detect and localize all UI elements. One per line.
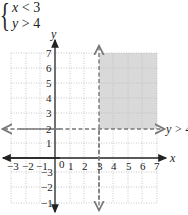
svg-text:5: 5 [46,77,52,89]
y-axis-label: y [50,27,57,41]
svg-text:7: 7 [46,47,52,59]
x-tick-labels: −3 −2 −1 0 1 2 3 4 5 6 7 [7,158,160,172]
svg-text:3: 3 [46,107,52,119]
svg-text:6: 6 [140,160,146,172]
boundary-label: y > 4 [165,122,188,136]
svg-text:1: 1 [46,137,52,149]
svg-text:−3: −3 [41,166,53,178]
svg-text:−2: −2 [22,160,34,172]
svg-text:0: 0 [59,158,65,170]
svg-text:−2: −2 [41,181,53,193]
svg-text:−1: −1 [41,197,53,209]
svg-text:4: 4 [46,92,52,104]
svg-text:5: 5 [126,160,132,172]
svg-text:7: 7 [154,160,160,172]
coordinate-graph: y x y > 4 −3 −2 −1 0 1 2 3 4 5 6 7 −3 −2… [0,0,188,215]
svg-text:2: 2 [46,123,52,135]
x-axis-label: x [169,151,176,165]
svg-text:2: 2 [82,160,88,172]
svg-text:−3: −3 [7,160,19,172]
svg-text:1: 1 [68,160,74,172]
svg-text:4: 4 [111,160,117,172]
svg-text:6: 6 [46,62,52,74]
svg-text:3: 3 [97,160,103,172]
y-tick-labels: −3 −2 −1 1 2 3 4 5 6 7 [41,47,53,209]
